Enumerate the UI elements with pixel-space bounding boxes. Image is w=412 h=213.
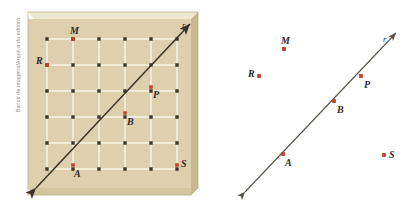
diagram-point-labels: MRPBAS	[247, 35, 395, 168]
board-right-bevel	[191, 12, 198, 195]
geoboard-panel: MRPBAS r	[0, 0, 206, 213]
geoboard-peg	[123, 37, 126, 40]
point-label-R: R	[247, 68, 255, 79]
geoboard-peg	[123, 167, 126, 170]
geoboard-peg	[149, 115, 152, 118]
point-marker-R	[45, 63, 49, 67]
point-marker-S	[175, 163, 179, 167]
line-r-segment-right	[245, 33, 396, 192]
geoboard-peg	[123, 141, 126, 144]
point-marker-M	[282, 47, 286, 51]
point-label-B: B	[336, 104, 344, 115]
geoboard-peg	[97, 167, 100, 170]
line-label-r-left: r	[182, 20, 186, 30]
geoboard-peg	[71, 141, 74, 144]
point-marker-A	[281, 152, 285, 156]
geoboard-peg	[175, 89, 178, 92]
geoboard-peg	[45, 167, 48, 170]
geoboard-peg	[45, 89, 48, 92]
point-label-R: R	[35, 55, 43, 66]
geoboard-peg	[149, 167, 152, 170]
abstract-diagram-svg: MRPBAS r	[206, 0, 412, 213]
line-label-r-right: r	[383, 34, 387, 44]
geoboard-peg	[175, 167, 178, 170]
geoboard-peg	[45, 141, 48, 144]
point-label-P: P	[153, 89, 160, 100]
point-label-P: P	[364, 79, 371, 90]
geoboard-peg	[45, 37, 48, 40]
board-bottom-shade	[28, 188, 191, 195]
point-label-A: A	[73, 168, 81, 179]
geoboard-peg	[71, 89, 74, 92]
geoboard-peg	[97, 141, 100, 144]
geoboard-peg	[71, 115, 74, 118]
geoboard-peg	[149, 141, 152, 144]
point-marker-S	[382, 153, 386, 157]
geoboard-peg	[175, 115, 178, 118]
point-label-A: A	[284, 157, 292, 168]
geoboard-peg	[149, 37, 152, 40]
geoboard-peg	[175, 141, 178, 144]
point-label-B: B	[126, 116, 134, 127]
geoboard-peg	[97, 63, 100, 66]
point-marker-R	[257, 74, 261, 78]
geoboard-peg	[175, 63, 178, 66]
figure-root: Banco de imagens/Arquivo da editora	[0, 0, 412, 213]
point-marker-A	[71, 163, 75, 167]
abstract-diagram-panel: MRPBAS r	[206, 0, 412, 213]
geoboard-peg	[97, 89, 100, 92]
geoboard-peg	[123, 63, 126, 66]
geoboard-peg	[97, 115, 100, 118]
board-top-bevel	[28, 12, 198, 19]
point-label-S: S	[181, 158, 187, 169]
geoboard-svg: MRPBAS r	[0, 0, 206, 213]
diagram-line-r	[245, 33, 396, 192]
point-marker-M	[71, 37, 75, 41]
point-label-S: S	[389, 149, 395, 160]
geoboard-peg	[97, 37, 100, 40]
point-label-M: M	[69, 25, 80, 36]
geoboard-peg	[45, 115, 48, 118]
board-face	[28, 19, 191, 188]
geoboard-peg	[71, 63, 74, 66]
point-label-M: M	[280, 35, 291, 46]
point-marker-B	[123, 111, 127, 115]
point-marker-B	[332, 99, 336, 103]
point-marker-P	[359, 74, 363, 78]
